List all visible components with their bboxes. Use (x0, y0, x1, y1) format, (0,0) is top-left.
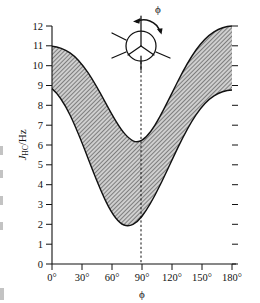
x-tick-label: 180° (222, 272, 242, 283)
x-tick-label: 120° (162, 272, 182, 283)
y-tick-label: 6 (38, 140, 43, 151)
x-tick-label: 30° (75, 272, 90, 283)
y-tick-label: 9 (38, 80, 43, 91)
y-axis-title-group: JHC/Hz (16, 129, 30, 160)
x-tick-label: 90° (135, 272, 150, 283)
phi-inset-label: ϕ (155, 3, 161, 15)
y-tick-label: 3 (38, 199, 43, 210)
y-tick-label: 0 (38, 259, 43, 270)
y-tick-label: 1 (38, 239, 43, 250)
y-axis-title: JHC/Hz (16, 129, 30, 160)
x-tick-label: 60° (105, 272, 120, 283)
y-tick-label: 8 (38, 100, 43, 111)
x-tick-label: 150° (192, 272, 212, 283)
figure-container: 0 1 2 3 4 5 6 7 8 9 10 11 12 0° 30° 60° … (0, 0, 260, 303)
y-tick-label: 12 (33, 21, 44, 32)
x-axis-title: ϕ (139, 288, 145, 300)
y-tick-label: 10 (33, 60, 44, 71)
karplus-curve-chart: 0 1 2 3 4 5 6 7 8 9 10 11 12 0° 30° 60° … (0, 0, 260, 303)
y-tick-label: 11 (33, 40, 43, 51)
x-tick-label: 0° (47, 272, 56, 283)
y-tick-label: 7 (38, 120, 43, 131)
y-tick-label: 2 (38, 219, 43, 230)
y-tick-label: 4 (38, 179, 44, 190)
y-tick-label: 5 (38, 159, 43, 170)
